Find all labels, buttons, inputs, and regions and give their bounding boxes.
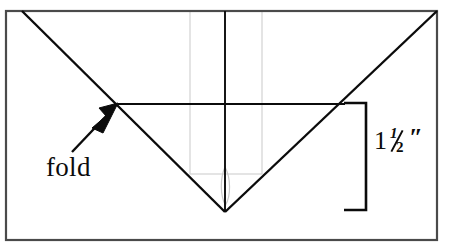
dimension-unit-inches: ″: [409, 125, 423, 150]
arrow-up-right-icon: [92, 103, 118, 133]
guide-rectangle: [190, 11, 262, 174]
dimension-label: 1 1 2 ″: [374, 127, 423, 155]
fold-diagram-figure: fold 1 1 2 ″: [0, 0, 450, 250]
dimension-whole-number: 1: [374, 128, 387, 154]
diagonal-right-line: [225, 11, 437, 212]
fold-label: fold: [46, 152, 91, 183]
diagram-canvas: [0, 0, 450, 250]
fraction-denominator: 2: [396, 140, 404, 155]
paper-border: [6, 11, 437, 240]
dimension-bracket-icon: [344, 103, 366, 210]
dimension-fraction: 1 2: [388, 127, 407, 155]
